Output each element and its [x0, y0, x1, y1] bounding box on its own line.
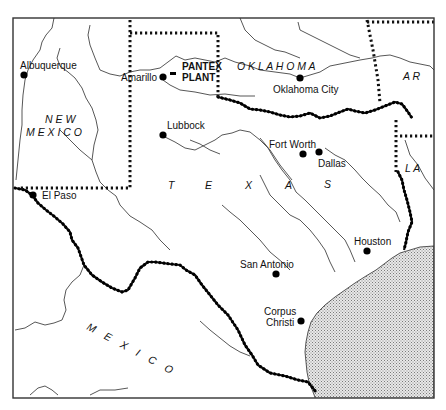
city-oklahoma-city: Oklahoma City	[273, 74, 339, 95]
city-label-2: Christi	[266, 317, 294, 328]
label-oklahoma: O K L A H O M A	[237, 60, 316, 72]
city-houston: Houston	[354, 236, 391, 255]
city-dot-icon	[297, 317, 304, 324]
pantex-label-1: PANTEX	[182, 61, 222, 72]
pantex-label-2: PLANT	[182, 72, 215, 83]
gulf-of-mexico	[305, 246, 434, 400]
texas-oklahoma-border	[218, 97, 412, 118]
label-texas-x: X	[244, 179, 253, 191]
label-texas-t: T	[168, 179, 176, 191]
city-dot-icon	[363, 247, 370, 254]
city-dot-icon	[299, 150, 306, 157]
facility-marker-icon	[170, 72, 176, 75]
label-texas-s: S	[324, 178, 331, 190]
label-mexico: M E X I C O	[85, 320, 179, 378]
label-new-mexico-1: N E W	[45, 113, 76, 125]
city-label: San Antonio	[240, 259, 294, 270]
state-borders	[18, 20, 434, 188]
city-dot-icon	[296, 74, 303, 81]
city-label: Corpus	[264, 306, 296, 317]
city-label: Dallas	[318, 158, 346, 169]
city-corpus-christi: Corpus Christi	[264, 306, 305, 328]
city-lubbock: Lubbock	[159, 120, 205, 139]
city-label: Fort Worth	[269, 139, 316, 150]
label-texas-e: E	[205, 179, 213, 191]
city-label: Lubbock	[167, 120, 206, 131]
city-dot-icon	[315, 148, 322, 155]
texas-louisiana-border	[398, 172, 412, 250]
city-label: Amarillo	[121, 72, 158, 83]
city-dot-icon	[272, 270, 279, 277]
label-arkansas: A R	[402, 70, 421, 82]
city-fort-worth: Fort Worth	[269, 139, 316, 158]
city-san-antonio: San Antonio	[240, 259, 294, 278]
city-label: Oklahoma City	[273, 84, 339, 95]
label-new-mexico-2: M E X I C O	[26, 126, 82, 138]
city-dot-icon	[159, 73, 166, 80]
city-dot-icon	[29, 191, 36, 198]
pantex-plant: PANTEX PLANT	[170, 61, 222, 83]
city-dot-icon	[20, 71, 27, 78]
city-label: Albuquerque	[20, 60, 77, 71]
city-albuquerque: Albuquerque	[20, 60, 77, 79]
city-label: El Paso	[42, 190, 77, 201]
city-label: Houston	[354, 236, 391, 247]
label-louisiana: L A	[405, 162, 420, 174]
city-amarillo: Amarillo	[121, 72, 167, 83]
map-canvas: N E W M E X I C O O K L A H O M A A R L …	[0, 0, 446, 410]
label-texas-a: A	[284, 179, 292, 191]
city-dot-icon	[159, 131, 166, 138]
